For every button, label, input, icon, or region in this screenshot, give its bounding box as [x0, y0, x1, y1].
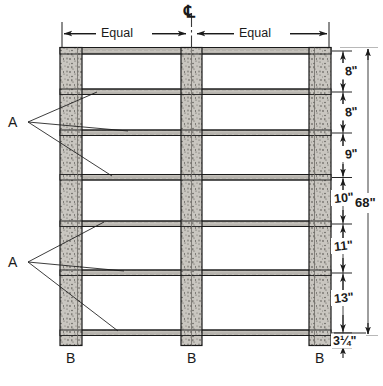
callout-b-right: B	[315, 350, 324, 366]
dimension-label-5: 13"	[333, 290, 354, 306]
equal-label-right: Equal	[239, 26, 271, 40]
callout-a-upper: A	[8, 114, 17, 130]
dimension-label-6: 3¼"	[333, 334, 356, 348]
centerline-symbol: ℄	[184, 1, 195, 22]
post-right	[309, 48, 331, 346]
dimension-label-2: 9"	[344, 146, 358, 161]
dimension-label-1: 8"	[344, 104, 358, 119]
overall-dimension-label: 68"	[355, 195, 376, 210]
dimension-label-3: 10"	[333, 190, 354, 206]
dimension-label-0: 8"	[344, 63, 358, 78]
callout-b-left: B	[66, 350, 75, 366]
callout-a-lower: A	[8, 254, 17, 270]
frame-elevation-drawing	[0, 0, 383, 386]
dimension-label-4: 11"	[333, 238, 353, 254]
callout-b-center: B	[187, 350, 196, 366]
equal-label-left: Equal	[101, 26, 133, 40]
